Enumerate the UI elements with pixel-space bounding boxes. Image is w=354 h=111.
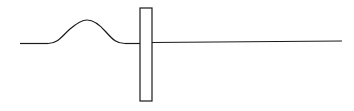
- string-right-segment: [152, 41, 342, 43]
- barrier: [140, 8, 152, 101]
- wave-diagram: [0, 0, 354, 111]
- wave-pulse: [48, 20, 125, 44]
